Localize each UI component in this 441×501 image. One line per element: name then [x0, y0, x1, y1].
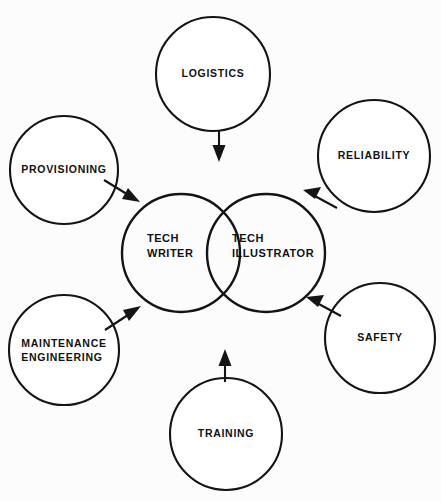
diagram-vector-layer — [0, 0, 441, 501]
node-circle-safety[interactable] — [325, 283, 435, 393]
node-circle-maintenance-engineering[interactable] — [9, 295, 119, 405]
arrow-logistics-to-center — [213, 131, 226, 162]
arrow-maintenance-engineering-to-tech-writer — [105, 306, 141, 330]
node-circle-training[interactable] — [170, 378, 282, 490]
node-circle-logistics[interactable] — [156, 17, 270, 131]
node-circle-tech-illustrator[interactable] — [207, 194, 325, 312]
arrow-training-to-center — [219, 349, 232, 382]
node-circle-provisioning[interactable] — [10, 116, 118, 224]
node-circle-reliability[interactable] — [318, 100, 430, 212]
venn-diagram-canvas: LOGISTICS PROVISIONING MAINTENANCE ENGIN… — [0, 0, 441, 501]
